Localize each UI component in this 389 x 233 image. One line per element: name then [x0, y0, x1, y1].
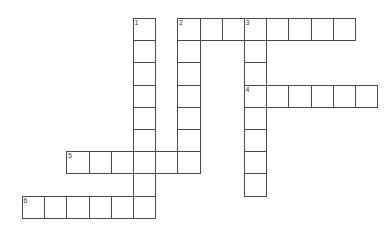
crossword-puzzle-grid: 123456 [0, 0, 389, 233]
clue-number-2: 2 [177, 18, 199, 40]
clue-number-5: 5 [66, 151, 88, 173]
crossword-numbers-layer: 123456 [0, 0, 389, 233]
clue-number-3: 3 [244, 18, 266, 40]
clue-number-6: 6 [22, 196, 44, 218]
clue-number-4: 4 [244, 85, 266, 107]
clue-number-1: 1 [133, 18, 155, 40]
